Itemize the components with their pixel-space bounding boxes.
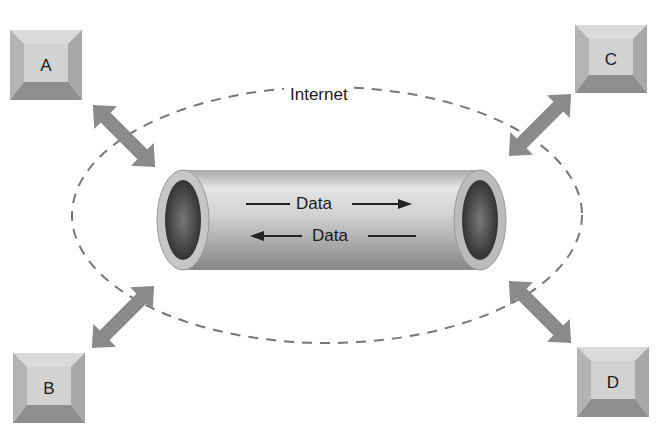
data-label-outbound: Data <box>296 194 332 214</box>
data-label-inbound: Data <box>312 226 348 246</box>
node-a-label: A <box>32 56 60 76</box>
node-d-label: D <box>599 373 627 393</box>
internet-label: Internet <box>284 85 354 105</box>
node-c-label: C <box>597 50 625 70</box>
diagram-canvas <box>0 0 661 434</box>
tunnel <box>157 170 506 270</box>
node-b-label: B <box>35 379 63 399</box>
